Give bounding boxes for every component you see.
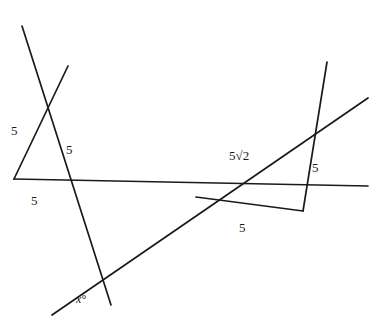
label-right-triangle-hypotenuse: 5√2 xyxy=(229,149,249,162)
right-base-segment xyxy=(196,197,303,211)
geometry-canvas xyxy=(0,0,381,335)
label-right-triangle-right-side: 5 xyxy=(312,161,319,174)
long-shallow-segment xyxy=(14,179,368,186)
label-angle-x: x° xyxy=(76,293,86,305)
label-right-triangle-base: 5 xyxy=(239,221,246,234)
label-left-triangle-base: 5 xyxy=(31,194,38,207)
long-rising-segment xyxy=(52,98,368,315)
label-left-triangle-left-side: 5 xyxy=(11,124,18,137)
right-descending-segment xyxy=(303,62,327,211)
geometry-figure: 5 5 5 5√2 5 5 x° xyxy=(0,0,381,335)
label-left-triangle-right-side: 5 xyxy=(66,143,73,156)
